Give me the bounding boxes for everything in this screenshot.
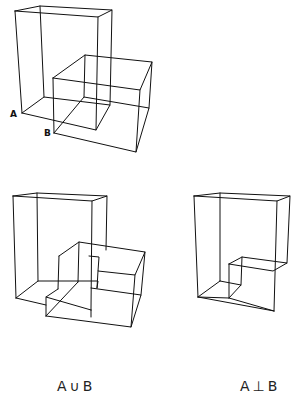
box-a-wireframe — [15, 6, 112, 130]
difference-wireframe — [194, 193, 290, 311]
box-b-wireframe — [53, 55, 152, 152]
diagram-canvas: A B — [0, 0, 297, 403]
difference-caption: A⊥B — [240, 378, 280, 394]
union-caption: A∪B — [57, 378, 95, 394]
vertex-label-b: B — [44, 128, 51, 138]
union-wireframe — [13, 193, 145, 327]
vertex-label-a: A — [10, 109, 17, 119]
